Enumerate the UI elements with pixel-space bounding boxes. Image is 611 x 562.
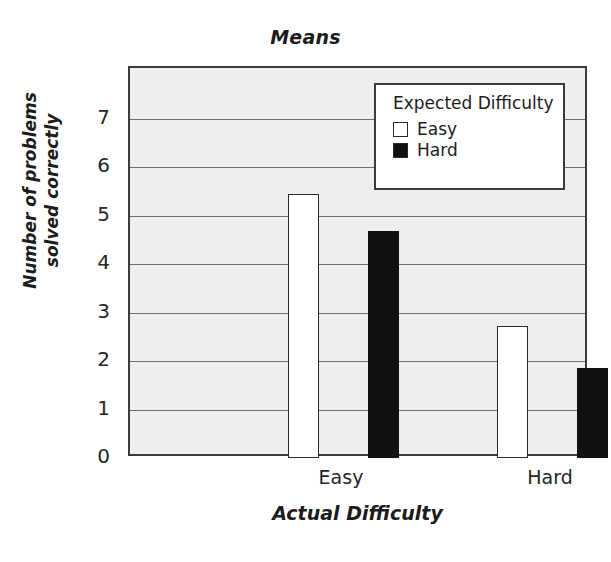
legend-entry-label: Hard xyxy=(417,141,458,160)
x-axis-tick-labels: EasyHard xyxy=(128,466,587,496)
y-axis-tick-label: 6 xyxy=(97,155,110,175)
legend-entries: EasyHard xyxy=(393,120,563,160)
y-axis-tick-label: 5 xyxy=(97,204,110,224)
chart-figure: Means Number of problems solved correctl… xyxy=(0,0,611,562)
bar-easy-easy xyxy=(288,194,319,458)
chart-title: Means xyxy=(0,26,611,48)
x-axis-tick-label: Easy xyxy=(319,466,364,488)
legend-title: Expected Difficulty xyxy=(393,94,563,113)
y-axis-tick-label: 4 xyxy=(97,252,110,272)
y-axis-tick-label: 3 xyxy=(97,301,110,321)
bar-easy-hard xyxy=(368,231,399,458)
legend-entry-label: Easy xyxy=(417,120,457,139)
legend-swatch-easy-icon xyxy=(393,122,408,137)
x-axis-label: Actual Difficulty xyxy=(128,502,587,524)
legend: Expected Difficulty EasyHard xyxy=(374,83,565,190)
x-axis-tick-label: Hard xyxy=(527,466,572,488)
legend-entry: Easy xyxy=(393,120,563,139)
bar-hard-hard xyxy=(577,368,608,458)
y-axis-tick-labels: 01234567 xyxy=(0,66,122,456)
legend-swatch-hard-icon xyxy=(393,143,408,158)
y-axis-tick-label: 1 xyxy=(97,398,110,418)
y-axis-tick-label: 2 xyxy=(97,349,110,369)
bar-hard-easy xyxy=(497,326,528,458)
y-axis-tick-label: 0 xyxy=(97,446,110,466)
legend-entry: Hard xyxy=(393,141,563,160)
y-axis-tick-label: 7 xyxy=(97,107,110,127)
